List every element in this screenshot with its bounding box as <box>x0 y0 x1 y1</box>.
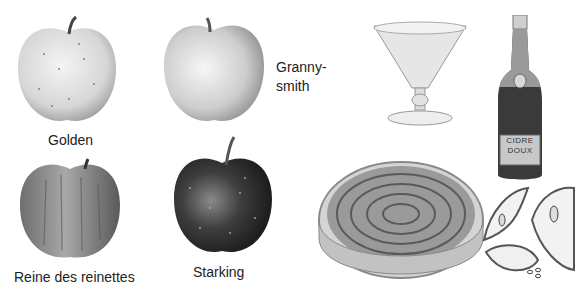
cider-bottle-illustration <box>496 15 544 183</box>
starking-apple-illustration <box>170 133 276 257</box>
granny-smith-apple-illustration <box>160 14 268 126</box>
reine-des-reinettes-apple-illustration <box>16 155 124 263</box>
cider-glass-illustration <box>370 20 470 130</box>
label-granny-smith-line1: Granny- <box>276 58 327 77</box>
label-granny-smith: Granny- smith <box>276 58 327 96</box>
label-golden: Golden <box>48 132 93 148</box>
bottle-label-line2: DOUX <box>500 146 540 156</box>
bottle-label-line1: CIDRE <box>500 136 540 146</box>
apple-halves-illustration <box>480 180 576 280</box>
label-granny-smith-line2: smith <box>276 77 327 96</box>
golden-apple-illustration <box>14 14 120 126</box>
apple-tart-illustration <box>316 158 486 290</box>
bottle-label: CIDRE DOUX <box>500 136 540 156</box>
label-starking: Starking <box>193 264 244 280</box>
label-reine-des-reinettes: Reine des reinettes <box>14 269 135 285</box>
